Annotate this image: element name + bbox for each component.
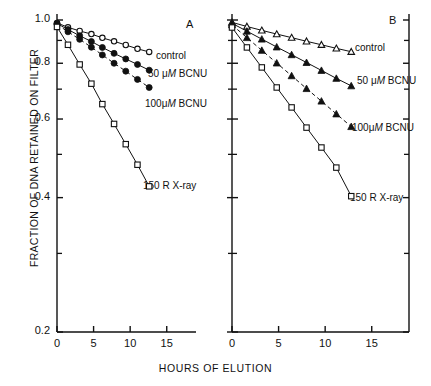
data-point-50-m-bcnu	[258, 36, 265, 42]
data-point-control	[123, 42, 128, 47]
data-point-150-r-x-ray	[244, 45, 249, 50]
data-point-50-m-bcnu	[146, 67, 152, 73]
data-point-control	[135, 46, 140, 51]
data-point-150-r-x-ray	[274, 85, 279, 90]
data-point-150-r-x-ray	[89, 81, 94, 86]
data-point-50-m-bcnu	[333, 75, 340, 81]
data-point-50-m-bcnu	[99, 44, 105, 50]
data-point-150-r-x-ray	[123, 141, 128, 146]
data-point-100-m-bcnu	[134, 76, 140, 82]
data-point-150-r-x-ray	[146, 184, 151, 189]
data-point-150-r-x-ray	[229, 25, 234, 30]
data-point-100-m-bcnu	[77, 36, 83, 42]
data-point-control	[89, 31, 94, 36]
data-point-150-r-x-ray	[54, 24, 59, 29]
data-point-control	[146, 49, 151, 54]
data-point-control	[100, 35, 105, 40]
data-point-150-r-x-ray	[349, 193, 354, 198]
data-point-100-m-bcnu	[99, 52, 105, 58]
data-point-100-m-bcnu	[348, 123, 355, 129]
data-point-150-r-x-ray	[319, 145, 324, 150]
data-point-100-m-bcnu	[273, 60, 280, 66]
data-point-100-m-bcnu	[65, 29, 71, 35]
data-point-100-m-bcnu	[88, 44, 94, 50]
data-point-150-r-x-ray	[135, 162, 140, 167]
data-point-50-m-bcnu	[111, 50, 117, 56]
data-point-50-m-bcnu	[273, 43, 280, 49]
data-point-50-m-bcnu	[123, 56, 129, 62]
plot-canvas	[0, 0, 431, 386]
data-point-150-r-x-ray	[289, 105, 294, 110]
data-point-50-m-bcnu	[88, 39, 94, 45]
data-point-150-r-x-ray	[111, 121, 116, 126]
data-point-control	[111, 39, 116, 44]
data-point-50-m-bcnu	[318, 67, 325, 73]
data-point-150-r-x-ray	[259, 65, 264, 70]
data-point-50-m-bcnu	[288, 51, 295, 57]
data-point-50-m-bcnu	[134, 61, 140, 67]
data-point-150-r-x-ray	[100, 101, 105, 106]
data-point-100-m-bcnu	[123, 68, 129, 74]
data-point-100-m-bcnu	[288, 72, 295, 78]
data-point-50-m-bcnu	[348, 82, 355, 88]
data-point-150-r-x-ray	[77, 62, 82, 67]
data-point-100-m-bcnu	[111, 60, 117, 66]
figure-root: FRACTION OF DNA RETAINED ON FILTER HOURS…	[0, 0, 431, 386]
data-point-100-m-bcnu	[146, 84, 152, 90]
data-point-150-r-x-ray	[304, 125, 309, 130]
data-point-150-r-x-ray	[65, 42, 70, 47]
data-point-150-r-x-ray	[334, 165, 339, 170]
data-point-50-m-bcnu	[303, 59, 310, 65]
